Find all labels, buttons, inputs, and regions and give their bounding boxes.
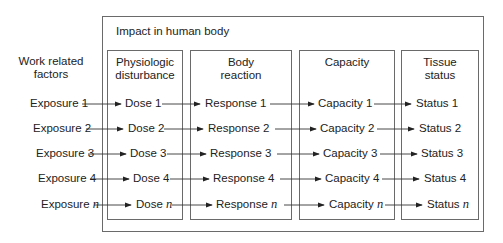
capacity-n: Capacity n — [329, 198, 383, 211]
status-1: Status 1 — [416, 97, 458, 110]
status-n: Status n — [427, 198, 469, 211]
dose-n-label: Dose — [136, 198, 163, 210]
response-4: Response 4 — [213, 172, 274, 185]
exposure-4: Exposure 4 — [38, 172, 96, 185]
exposure-1: Exposure 1 — [30, 97, 88, 110]
dose-n: Dose n — [136, 198, 172, 211]
dose-2: Dose 2 — [128, 122, 164, 135]
status-2: Status 2 — [419, 122, 461, 135]
n-suffix: n — [463, 197, 469, 211]
response-2: Response 2 — [208, 122, 269, 135]
dose-1: Dose 1 — [125, 97, 161, 110]
n-suffix: n — [166, 197, 172, 211]
capacity-1: Capacity 1 — [318, 97, 372, 110]
response-3: Response 3 — [210, 147, 271, 160]
capacity-3: Capacity 3 — [323, 147, 377, 160]
dose-3: Dose 3 — [130, 147, 166, 160]
exposure-2: Exposure 2 — [33, 122, 91, 135]
n-suffix: n — [93, 197, 99, 211]
status-3: Status 3 — [421, 147, 463, 160]
exposure-3: Exposure 3 — [36, 147, 94, 160]
capacity-2: Capacity 2 — [320, 122, 374, 135]
dose-4: Dose 4 — [133, 172, 169, 185]
n-suffix: n — [271, 197, 277, 211]
response-n: Response n — [216, 198, 277, 211]
status-n-label: Status — [427, 198, 460, 210]
exposure-n: Exposure n — [41, 198, 99, 211]
status-4: Status 4 — [424, 172, 466, 185]
response-1: Response 1 — [205, 97, 266, 110]
n-suffix: n — [377, 197, 383, 211]
response-n-label: Response — [216, 198, 268, 210]
capacity-4: Capacity 4 — [325, 172, 379, 185]
capacity-n-label: Capacity — [329, 198, 374, 210]
exposure-n-label: Exposure — [41, 198, 90, 210]
